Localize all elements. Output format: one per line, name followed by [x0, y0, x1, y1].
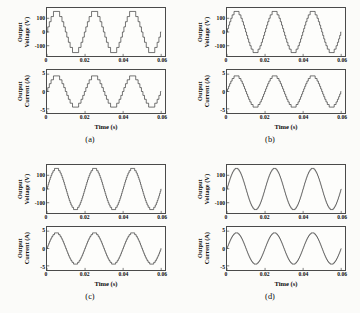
y-axis-label: OutputCurrent (A): [194, 226, 213, 271]
y-tick-label: 0: [222, 89, 225, 95]
x-tick-label: 0.02: [260, 214, 270, 220]
x-tick-label: 0.06: [157, 57, 167, 63]
x-tick-label: 0.06: [157, 214, 167, 220]
waveform-trace: [47, 11, 161, 52]
x-tick-label: 0.02: [260, 114, 270, 120]
y-tick-labels: 50-5: [213, 226, 226, 271]
y-tick-label: 100: [37, 15, 45, 21]
axes-current: [226, 226, 346, 271]
y-axis-label: OutputVoltage (V): [194, 7, 213, 57]
y-tick-label: 0: [42, 89, 45, 95]
x-tick-label: 0.02: [80, 214, 90, 220]
y-tick-label: 0: [42, 29, 45, 35]
subplot-current: OutputCurrent (A)50-5: [14, 69, 166, 114]
y-axis-label-line2: Voltage (V): [24, 17, 31, 47]
y-tick-label: 100: [37, 172, 45, 178]
y-tick-label: -5: [220, 264, 225, 270]
panel-caption: (a): [14, 135, 166, 144]
y-tick-label: -5: [40, 264, 45, 270]
x-tick-label: 0.06: [337, 114, 347, 120]
x-tick-labels: 00.020.040.06: [46, 271, 166, 280]
waveform-trace: [47, 76, 161, 107]
y-axis-label: OutputVoltage (V): [194, 164, 213, 214]
axes-current: [226, 69, 346, 114]
y-tick-label: 0: [42, 186, 45, 192]
x-tick-label: 0.04: [299, 214, 309, 220]
y-tick-label: 0: [42, 246, 45, 252]
x-tick-labels: 00.020.040.06: [46, 114, 166, 123]
y-tick-label: 100: [217, 172, 225, 178]
x-tick-label: 0.04: [119, 114, 129, 120]
y-axis-label-line2: Current (A): [204, 75, 211, 107]
subplot-current: OutputCurrent (A)50-5: [194, 226, 346, 271]
y-axis-label-line2: Current (A): [24, 232, 31, 264]
y-tick-label: 5: [42, 227, 45, 233]
x-tick-label: 0.04: [299, 114, 309, 120]
x-tick-label: 0.06: [337, 57, 347, 63]
x-tick-label: 0.06: [157, 271, 167, 277]
axes-voltage: [46, 164, 166, 214]
x-axis-label: Time (s): [226, 280, 346, 287]
x-tick-labels: 00.020.040.06: [46, 214, 166, 223]
axes-voltage: [226, 164, 346, 214]
x-tick-label: 0.06: [157, 114, 167, 120]
y-axis-label-line2: Current (A): [204, 232, 211, 264]
panel-caption: (c): [14, 292, 166, 301]
y-axis-label-line2: Voltage (V): [204, 17, 211, 47]
panel-b: OutputVoltage (V)1000-10000.020.040.06Ti…: [180, 0, 360, 157]
axes-current: [46, 226, 166, 271]
x-axis-label: Time (s): [46, 123, 166, 130]
y-tick-label: 5: [222, 70, 225, 76]
subplot-voltage: OutputVoltage (V)1000-100: [194, 7, 346, 57]
x-tick-label: 0.06: [337, 214, 347, 220]
y-tick-labels: 50-5: [33, 69, 46, 114]
subplot-voltage: OutputVoltage (V)1000-100: [194, 164, 346, 214]
x-tick-label: 0: [45, 271, 48, 277]
x-tick-labels: 00.020.040.06: [226, 114, 346, 123]
x-tick-label: 0: [45, 57, 48, 63]
y-axis-label-line2: Voltage (V): [24, 174, 31, 204]
x-tick-label: 0: [225, 271, 228, 277]
subplot-current: OutputCurrent (A)50-5: [14, 226, 166, 271]
x-tick-label: 0.02: [260, 57, 270, 63]
x-tick-label: 0.02: [80, 57, 90, 63]
figure-grid: OutputVoltage (V)1000-10000.020.040.06Ti…: [0, 0, 360, 313]
x-tick-label: 0.04: [119, 57, 129, 63]
x-tick-label: 0.06: [337, 271, 347, 277]
y-tick-label: 0: [222, 246, 225, 252]
x-tick-labels: 00.020.040.06: [226, 57, 346, 66]
waveform-trace: [227, 233, 341, 264]
y-tick-label: 0: [222, 29, 225, 35]
waveform-trace: [227, 11, 341, 52]
y-tick-label: 100: [217, 15, 225, 21]
panel-caption: (b): [194, 135, 346, 144]
x-tick-label: 0: [225, 214, 228, 220]
axes-voltage: [226, 7, 346, 57]
y-tick-labels: 50-5: [33, 226, 46, 271]
y-axis-label: OutputCurrent (A): [14, 226, 33, 271]
y-tick-label: -100: [35, 43, 45, 49]
y-axis-label-line2: Voltage (V): [204, 174, 211, 204]
y-tick-label: -100: [215, 43, 225, 49]
x-axis-label: Time (s): [226, 123, 346, 130]
y-tick-label: -5: [40, 107, 45, 113]
waveform-trace: [227, 76, 341, 107]
y-axis-label: OutputCurrent (A): [14, 69, 33, 114]
x-tick-labels: 00.020.040.06: [226, 214, 346, 223]
x-tick-label: 0.04: [299, 57, 309, 63]
panel-d: OutputVoltage (V)1000-10000.020.040.06Ti…: [180, 157, 360, 313]
y-tick-label: 5: [222, 227, 225, 233]
x-tick-labels: 00.020.040.06: [226, 271, 346, 280]
y-tick-labels: 1000-100: [213, 164, 226, 214]
waveform-trace: [47, 233, 161, 264]
panel-a: OutputVoltage (V)1000-10000.020.040.06Ti…: [0, 0, 180, 157]
y-tick-label: -100: [215, 200, 225, 206]
waveform-trace: [47, 168, 161, 209]
y-axis-label: OutputVoltage (V): [14, 164, 33, 214]
subplot-voltage: OutputVoltage (V)1000-100: [14, 164, 166, 214]
x-tick-label: 0: [45, 114, 48, 120]
x-tick-label: 0.04: [119, 214, 129, 220]
panel-caption: (d): [194, 292, 346, 301]
x-tick-label: 0: [45, 214, 48, 220]
x-tick-label: 0: [225, 57, 228, 63]
